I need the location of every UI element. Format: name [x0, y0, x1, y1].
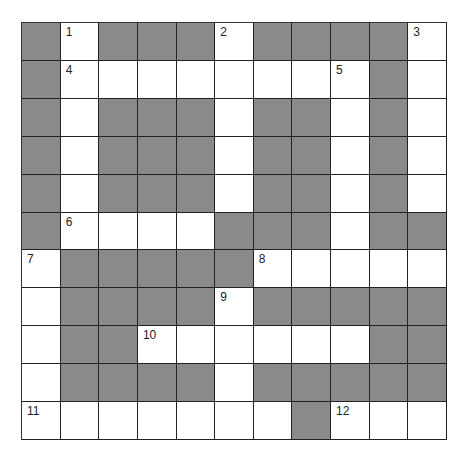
answer-cell[interactable] [331, 175, 370, 213]
answer-cell[interactable] [254, 402, 293, 440]
block-cell [215, 250, 254, 288]
answer-cell[interactable] [99, 213, 138, 251]
answer-cell[interactable] [331, 326, 370, 364]
answer-cell[interactable] [331, 213, 370, 251]
crossword-grid: 123456789101112 [21, 22, 447, 440]
answer-cell[interactable] [61, 402, 100, 440]
answer-cell[interactable] [215, 175, 254, 213]
block-cell [408, 326, 447, 364]
block-cell [138, 99, 177, 137]
block-cell [254, 364, 293, 402]
answer-cell[interactable] [22, 364, 61, 402]
block-cell [331, 23, 370, 61]
answer-cell[interactable]: 7 [22, 250, 61, 288]
answer-cell[interactable] [138, 61, 177, 99]
answer-cell[interactable] [408, 175, 447, 213]
clue-number: 11 [27, 405, 39, 417]
answer-cell[interactable] [254, 61, 293, 99]
block-cell [61, 288, 100, 326]
clue-number: 8 [259, 253, 266, 265]
block-cell [292, 364, 331, 402]
answer-cell[interactable] [292, 250, 331, 288]
answer-cell[interactable] [138, 402, 177, 440]
block-cell [22, 99, 61, 137]
answer-cell[interactable] [370, 250, 409, 288]
block-cell [292, 137, 331, 175]
answer-cell[interactable] [177, 326, 216, 364]
block-cell [370, 23, 409, 61]
answer-cell[interactable] [254, 326, 293, 364]
answer-cell[interactable] [408, 137, 447, 175]
answer-cell[interactable] [61, 99, 100, 137]
clue-number: 2 [220, 26, 227, 38]
answer-cell[interactable] [99, 402, 138, 440]
answer-cell[interactable]: 5 [331, 61, 370, 99]
block-cell [408, 213, 447, 251]
block-cell [370, 137, 409, 175]
block-cell [370, 61, 409, 99]
answer-cell[interactable]: 2 [215, 23, 254, 61]
answer-cell[interactable]: 3 [408, 23, 447, 61]
block-cell [99, 250, 138, 288]
answer-cell[interactable] [408, 99, 447, 137]
answer-cell[interactable]: 6 [61, 213, 100, 251]
answer-cell[interactable] [215, 364, 254, 402]
answer-cell[interactable] [215, 61, 254, 99]
block-cell [370, 288, 409, 326]
answer-cell[interactable]: 11 [22, 402, 61, 440]
clue-number: 3 [413, 26, 420, 38]
block-cell [177, 250, 216, 288]
answer-cell[interactable] [177, 402, 216, 440]
block-cell [99, 326, 138, 364]
block-cell [177, 137, 216, 175]
block-cell [254, 213, 293, 251]
answer-cell[interactable] [138, 213, 177, 251]
block-cell [99, 23, 138, 61]
clue-number: 10 [143, 329, 156, 341]
block-cell [22, 61, 61, 99]
answer-cell[interactable]: 4 [61, 61, 100, 99]
answer-cell[interactable] [215, 99, 254, 137]
answer-cell[interactable] [331, 137, 370, 175]
answer-cell[interactable] [61, 137, 100, 175]
answer-cell[interactable] [61, 175, 100, 213]
answer-cell[interactable] [370, 402, 409, 440]
block-cell [254, 99, 293, 137]
answer-cell[interactable] [292, 326, 331, 364]
block-cell [177, 23, 216, 61]
answer-cell[interactable] [177, 61, 216, 99]
answer-cell[interactable]: 12 [331, 402, 370, 440]
answer-cell[interactable] [215, 137, 254, 175]
block-cell [138, 250, 177, 288]
block-cell [177, 175, 216, 213]
block-cell [292, 288, 331, 326]
answer-cell[interactable] [177, 213, 216, 251]
answer-cell[interactable] [22, 326, 61, 364]
block-cell [370, 326, 409, 364]
block-cell [370, 99, 409, 137]
clue-number: 12 [336, 405, 349, 417]
answer-cell[interactable]: 9 [215, 288, 254, 326]
answer-cell[interactable]: 8 [254, 250, 293, 288]
answer-cell[interactable] [408, 250, 447, 288]
block-cell [22, 213, 61, 251]
answer-cell[interactable] [22, 288, 61, 326]
block-cell [408, 364, 447, 402]
answer-cell[interactable] [292, 61, 331, 99]
answer-cell[interactable]: 1 [61, 23, 100, 61]
answer-cell[interactable] [215, 326, 254, 364]
block-cell [292, 213, 331, 251]
answer-cell[interactable] [99, 61, 138, 99]
block-cell [138, 364, 177, 402]
answer-cell[interactable] [408, 61, 447, 99]
answer-cell[interactable] [408, 402, 447, 440]
answer-cell[interactable] [331, 250, 370, 288]
block-cell [22, 137, 61, 175]
answer-cell[interactable] [331, 99, 370, 137]
block-cell [138, 288, 177, 326]
clue-number: 5 [336, 64, 343, 76]
block-cell [22, 23, 61, 61]
answer-cell[interactable] [215, 402, 254, 440]
block-cell [331, 288, 370, 326]
answer-cell[interactable]: 10 [138, 326, 177, 364]
